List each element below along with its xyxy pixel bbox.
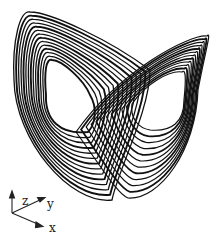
trajectory-loop — [28, 34, 122, 169]
y-arrow-icon — [38, 198, 46, 203]
z-arrow-icon — [10, 191, 15, 198]
x-arrow-icon — [36, 222, 44, 228]
attractor-trajectory — [14, 12, 209, 200]
z-axis-label: z — [22, 194, 28, 208]
x-axis-label: x — [49, 221, 56, 235]
y-axis-label: y — [46, 197, 54, 211]
lorenz-attractor-figure: z y x — [0, 0, 219, 242]
